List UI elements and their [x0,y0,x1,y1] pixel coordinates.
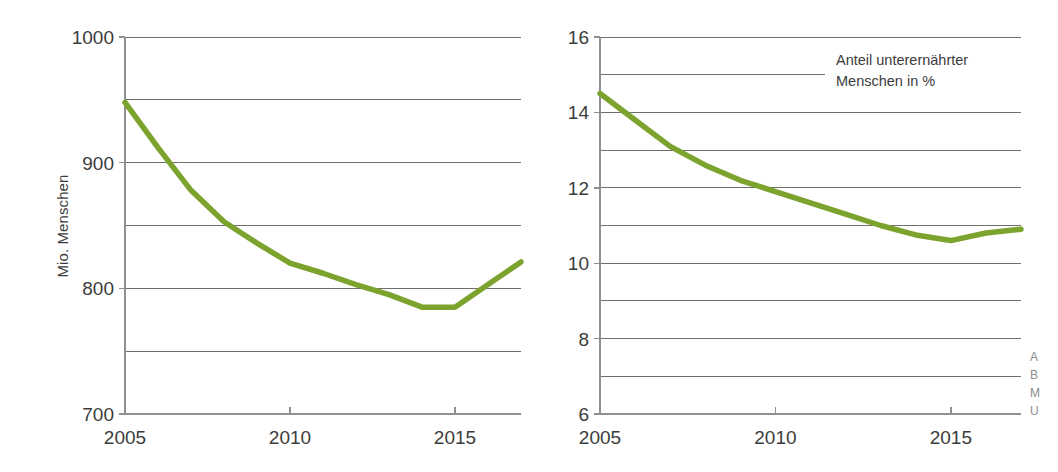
legend-label-line-2: Menschen in % [836,71,968,92]
gridlines-left [125,37,521,414]
y-tick-label: 16 [568,28,589,47]
x-tick-label: 2015 [911,428,991,447]
source-note-line-3: M [1030,384,1058,402]
y-tick-label: 900 [82,154,114,173]
x-tick-label: 2010 [250,428,330,447]
y-tick-label: 12 [568,179,589,198]
x-tick-label: 2005 [85,428,165,447]
legend-label-line-1: Anteil unterernährter [836,50,968,71]
source-note-line-4: U [1030,402,1058,420]
y-axis-title-left: Mio. Menschen [54,174,71,277]
y-tick-label: 800 [82,279,114,298]
y-tick-label: 10 [568,254,589,273]
gridlines-right [600,37,1021,414]
y-tick-label: 1000 [72,28,114,47]
x-tick-label: 2005 [560,428,640,447]
x-tick-label: 2010 [735,428,815,447]
data-line-anteil-prozent [600,94,1021,241]
chart-panel-right: Anteil unterernährter Menschen in % 6810… [530,0,1058,472]
legend-label-anteil-unterernaehrter: Anteil unterernährter Menschen in % [830,50,968,92]
source-note-clipped: A B M U [1030,348,1058,420]
x-tick-marks-right [775,407,950,414]
y-tick-label: 700 [82,405,114,424]
source-note-line-2: B [1030,366,1058,384]
two-panel-line-chart-figure: Mio. Menschen 7008009001000 200520102015… [0,0,1058,472]
source-note-line-1: A [1030,348,1058,366]
chart-panel-left: Mio. Menschen 7008009001000 200520102015 [0,0,530,472]
x-tick-label: 2015 [415,428,495,447]
y-tick-label: 8 [578,330,589,349]
y-tick-label: 6 [578,405,589,424]
x-tick-marks-left [290,407,455,414]
y-tick-label: 14 [568,103,589,122]
data-line-mio-menschen [125,102,521,307]
plot-area-right [530,0,1058,472]
plot-area-left [0,0,530,472]
